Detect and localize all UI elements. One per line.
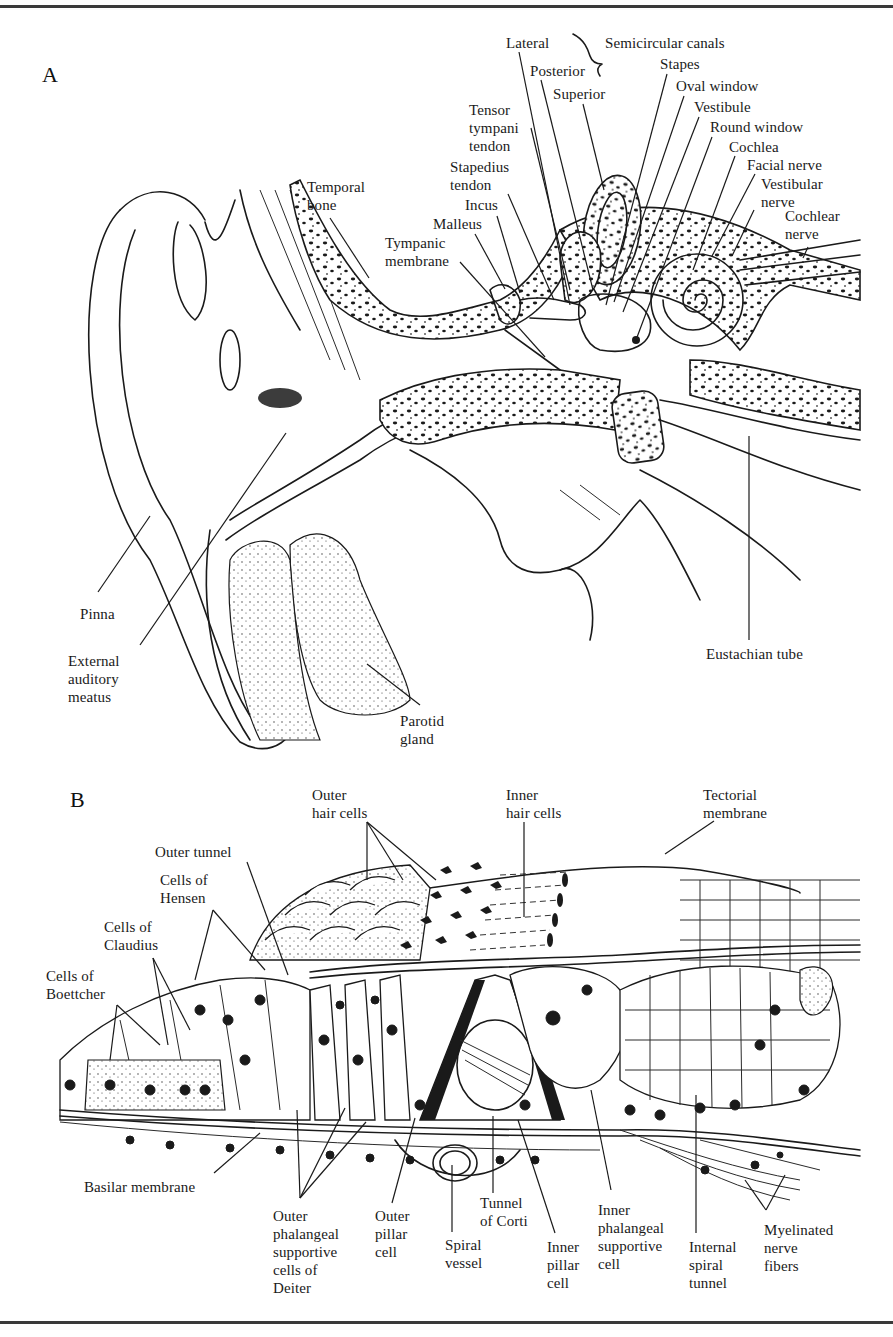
- label-outer-hair-cells: Outer hair cells: [312, 786, 368, 822]
- label-vestibular-nerve: Vestibular nerve: [761, 175, 823, 211]
- label-basilar-membrane: Basilar membrane: [84, 1178, 195, 1196]
- label-internal-spiral-tunnel: Internal spiral tunnel: [689, 1238, 736, 1292]
- panel-b-drawing: [60, 862, 860, 1200]
- label-outer-pillar-cell: Outer pillar cell: [375, 1207, 410, 1261]
- label-inner-phalangeal-supportive-cell: Inner phalangeal supportive cell: [598, 1201, 664, 1273]
- label-cochlear-nerve: Cochlear nerve: [785, 207, 840, 243]
- label-outer-phalangeal-supportive-cells: Outer phalangeal supportive cells of Dei…: [273, 1207, 339, 1297]
- label-tectorial-membrane: Tectorial membrane: [703, 786, 767, 822]
- panel-letter-a: A: [42, 62, 58, 88]
- label-superior: Superior: [553, 85, 605, 103]
- label-lateral: Lateral: [506, 34, 549, 52]
- anatomical-illustration: [0, 0, 893, 1337]
- label-tunnel-of-corti: Tunnel of Corti: [480, 1194, 528, 1230]
- label-incus: Incus: [465, 196, 498, 214]
- label-tensor-tympani-tendon: Tensor tympani tendon: [469, 101, 519, 155]
- panel-letter-b: B: [70, 787, 85, 813]
- label-cells-of-claudius: Cells of Claudius: [104, 918, 158, 954]
- label-stapedius-tendon: Stapedius tendon: [450, 158, 509, 194]
- label-cells-of-hensen: Cells of Hensen: [160, 871, 208, 907]
- label-cochlea: Cochlea: [729, 138, 779, 156]
- label-cells-of-boettcher: Cells of Boettcher: [46, 967, 105, 1003]
- label-eustachian-tube: Eustachian tube: [706, 645, 803, 663]
- label-outer-tunnel: Outer tunnel: [155, 843, 232, 861]
- label-parotid-gland: Parotid gland: [400, 712, 444, 748]
- label-posterior: Posterior: [530, 62, 585, 80]
- label-inner-pillar-cell: Inner pillar cell: [547, 1238, 579, 1292]
- label-inner-hair-cells: Inner hair cells: [506, 786, 562, 822]
- label-oval-window: Oval window: [676, 77, 758, 95]
- label-pinna: Pinna: [80, 605, 115, 623]
- label-round-window: Round window: [710, 118, 803, 136]
- label-stapes: Stapes: [660, 55, 700, 73]
- label-facial-nerve: Facial nerve: [747, 156, 822, 174]
- label-tympanic-membrane: Tympanic membrane: [385, 234, 449, 270]
- label-temporal-bone: Temporal bone: [307, 178, 365, 214]
- label-vestibule: Vestibule: [694, 98, 751, 116]
- label-external-auditory-meatus: External auditory meatus: [68, 652, 120, 706]
- label-spiral-vessel: Spiral vessel: [445, 1236, 482, 1272]
- label-myelinated-nerve-fibers: Myelinated nerve fibers: [764, 1221, 833, 1275]
- label-semicircular-canals: Semicircular canals: [605, 34, 725, 52]
- label-malleus: Malleus: [433, 215, 482, 233]
